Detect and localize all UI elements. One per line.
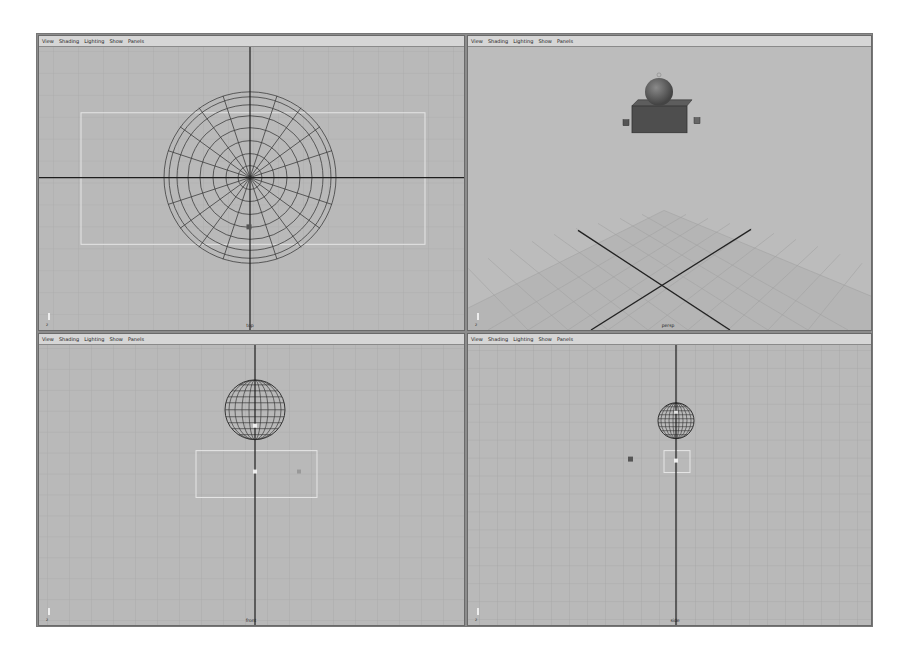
panel-persp[interactable]: View Shading Lighting Show Panels (467, 35, 872, 331)
persp-view-canvas (468, 47, 871, 330)
view-axis-icon: z (474, 313, 482, 327)
sphere-object (645, 78, 673, 106)
maya-four-view-layout: View Shading Lighting Show Panels (36, 33, 873, 627)
viewport-side[interactable]: z side (468, 345, 871, 625)
menu-view[interactable]: View (471, 334, 483, 344)
camera-label: persp (662, 323, 675, 328)
panel-top[interactable]: View Shading Lighting Show Panels (38, 35, 465, 331)
box-object (632, 106, 687, 133)
menu-shading[interactable]: Shading (59, 36, 79, 46)
pivot-handle (247, 224, 252, 229)
top-view-canvas (39, 47, 464, 330)
pivot-handle (253, 470, 257, 474)
viewport-front[interactable]: z front (39, 345, 464, 625)
menu-view[interactable]: View (471, 36, 483, 46)
camera-label: top (246, 323, 253, 328)
menu-show[interactable]: Show (538, 334, 552, 344)
menu-panels[interactable]: Panels (557, 36, 573, 46)
menu-lighting[interactable]: Lighting (513, 36, 533, 46)
menu-shading[interactable]: Shading (488, 36, 508, 46)
menu-show[interactable]: Show (538, 36, 552, 46)
menu-lighting[interactable]: Lighting (84, 36, 104, 46)
menu-view[interactable]: View (42, 36, 54, 46)
menu-panels[interactable]: Panels (128, 36, 144, 46)
panel-menubar: View Shading Lighting Show Panels (39, 334, 464, 345)
view-axis-icon: z (45, 313, 53, 327)
panel-menubar: View Shading Lighting Show Panels (468, 334, 871, 345)
panel-menubar: View Shading Lighting Show Panels (468, 36, 871, 47)
front-view-canvas (39, 345, 464, 625)
menu-show[interactable]: Show (109, 36, 123, 46)
camera-label: side (670, 618, 679, 623)
viewport-persp[interactable]: z persp (468, 47, 871, 330)
view-axis-icon: z (45, 608, 53, 622)
viewport-top[interactable]: z top (39, 47, 464, 330)
side-view-canvas (468, 345, 871, 625)
menu-panels[interactable]: Panels (128, 334, 144, 344)
pivot-handle (253, 424, 257, 428)
camera-label: front (246, 618, 257, 623)
menu-view[interactable]: View (42, 334, 54, 344)
menu-panels[interactable]: Panels (557, 334, 573, 344)
menu-shading[interactable]: Shading (488, 334, 508, 344)
menu-shading[interactable]: Shading (59, 334, 79, 344)
pivot-handle (674, 459, 678, 463)
view-axis-icon: z (474, 608, 482, 622)
panel-side[interactable]: View Shading Lighting Show Panels (467, 333, 872, 626)
panel-front[interactable]: View Shading Lighting Show Panels (38, 333, 465, 626)
menu-lighting[interactable]: Lighting (84, 334, 104, 344)
menu-show[interactable]: Show (109, 334, 123, 344)
menu-lighting[interactable]: Lighting (513, 334, 533, 344)
panel-menubar: View Shading Lighting Show Panels (39, 36, 464, 47)
